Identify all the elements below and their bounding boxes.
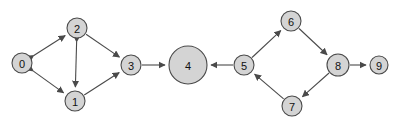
graph-edge-7-5 bbox=[255, 74, 284, 99]
graph-node-circle-4[interactable] bbox=[169, 46, 207, 84]
graph-edge-6-8 bbox=[299, 29, 327, 55]
graph-edge-2-1 bbox=[75, 42, 76, 87]
graph-node-circle-3[interactable] bbox=[121, 55, 141, 75]
graph-canvas: 0123456789 bbox=[0, 0, 399, 121]
graph-node-0[interactable]: 0 bbox=[12, 53, 32, 73]
graph-node-1[interactable]: 1 bbox=[65, 91, 85, 111]
graph-node-4[interactable]: 4 bbox=[169, 46, 207, 84]
graph-edge-2-3 bbox=[86, 34, 119, 57]
graph-edge-1-3 bbox=[84, 73, 119, 95]
graph-node-circle-1[interactable] bbox=[65, 91, 85, 111]
graph-diagram: 0123456789 bbox=[0, 0, 399, 121]
graph-edge-8-7 bbox=[302, 73, 329, 97]
graph-node-9[interactable]: 9 bbox=[370, 56, 388, 74]
graph-node-circle-0[interactable] bbox=[12, 53, 32, 73]
graph-node-circle-5[interactable] bbox=[234, 55, 254, 75]
graph-edge-5-6 bbox=[252, 31, 281, 58]
graph-node-circle-2[interactable] bbox=[67, 18, 87, 38]
graph-node-8[interactable]: 8 bbox=[327, 54, 349, 76]
graph-node-5[interactable]: 5 bbox=[234, 55, 254, 75]
graph-node-circle-7[interactable] bbox=[282, 96, 302, 116]
graph-edge-0-2 bbox=[34, 36, 65, 56]
graph-node-circle-8[interactable] bbox=[327, 54, 349, 76]
graph-node-6[interactable]: 6 bbox=[281, 11, 301, 31]
graph-node-7[interactable]: 7 bbox=[282, 96, 302, 116]
node-layer: 0123456789 bbox=[12, 11, 388, 116]
graph-node-circle-9[interactable] bbox=[370, 56, 388, 74]
graph-node-3[interactable]: 3 bbox=[121, 55, 141, 75]
graph-node-2[interactable]: 2 bbox=[67, 18, 87, 38]
graph-edge-0-1 bbox=[33, 71, 63, 93]
graph-node-circle-6[interactable] bbox=[281, 11, 301, 31]
